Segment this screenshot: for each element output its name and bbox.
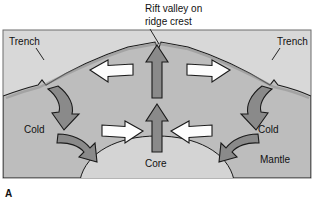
caption-title-line1: Rift valley on	[145, 3, 202, 14]
figure-container: Cold Cold Mantle Core Trench Trench Rift…	[0, 0, 314, 204]
label-trench-right: Trench	[277, 36, 308, 47]
mantle-convection-diagram: Cold Cold Mantle Core Trench Trench Rift…	[0, 0, 314, 204]
label-mantle: Mantle	[260, 154, 290, 165]
label-cold-right: Cold	[258, 124, 279, 135]
panel-letter: A	[5, 188, 12, 199]
label-trench-left: Trench	[9, 36, 40, 47]
caption-title-line2: ridge crest	[145, 16, 192, 27]
label-core: Core	[145, 158, 167, 169]
label-cold-left: Cold	[24, 124, 45, 135]
